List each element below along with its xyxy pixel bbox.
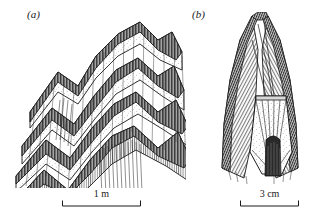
scalebar-a-rule (62, 200, 141, 208)
scalebar-b: 3 cm (240, 189, 299, 211)
figure-canvas (0, 0, 315, 215)
scalebar-b-rule (240, 200, 299, 208)
scalebar-a-label: 1 m (62, 188, 141, 199)
panel-label-b: (b) (192, 8, 205, 20)
scalebar-b-label: 3 cm (240, 188, 299, 199)
scalebar-a: 1 m (62, 189, 141, 211)
panel-label-a: (a) (27, 8, 40, 20)
